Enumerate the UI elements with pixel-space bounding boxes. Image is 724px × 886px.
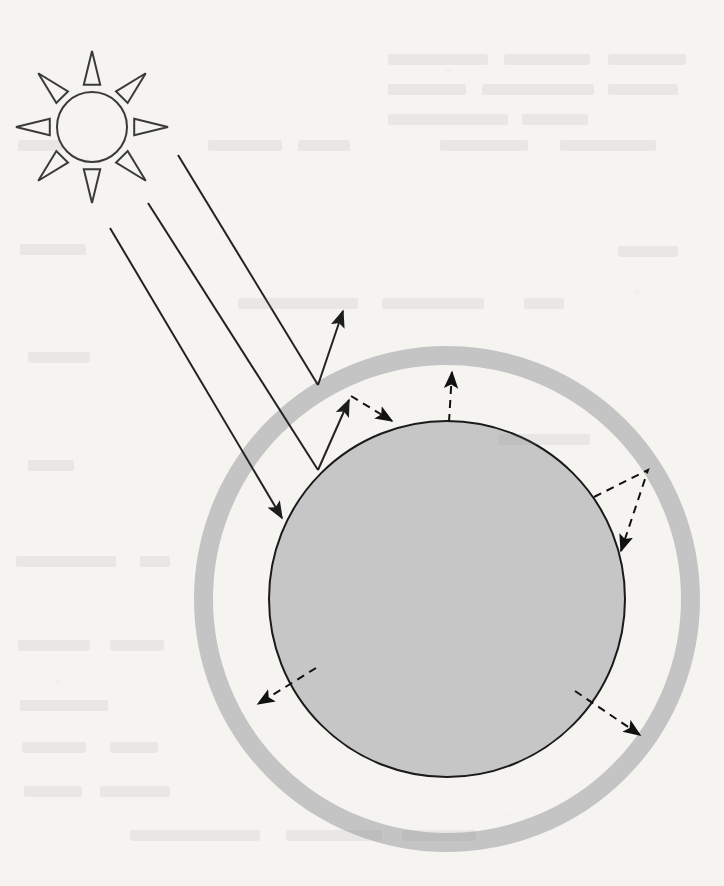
sun-ray-0	[84, 51, 100, 85]
ir-back-radiation-upper-left	[351, 396, 392, 421]
greenhouse-effect-diagram	[0, 0, 724, 886]
sun-core	[57, 92, 127, 162]
planet	[269, 421, 625, 777]
sun-ray-5	[38, 151, 68, 181]
ir-escaping-top	[449, 372, 452, 422]
sun	[16, 51, 168, 203]
sun-ray-2	[134, 119, 168, 135]
incoming-solar-rays	[110, 155, 349, 518]
figure-canvas	[0, 0, 724, 886]
sun-ray-1	[116, 73, 146, 103]
sun-ray-7	[38, 73, 68, 103]
sun-ray-3	[116, 151, 146, 181]
sun-ray-4	[84, 169, 100, 203]
planet-group	[269, 421, 625, 777]
ray-reflected-by-atmosphere	[178, 155, 318, 385]
sun-ray-6	[16, 119, 50, 135]
